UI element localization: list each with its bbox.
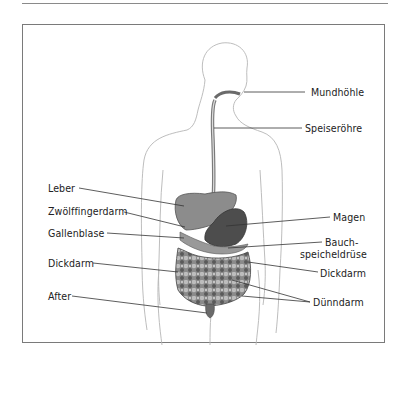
label-bauchspeicheldruese-2: speicheldrüse bbox=[300, 248, 367, 260]
label-bauchspeicheldruese-1: Bauch- bbox=[325, 236, 358, 248]
label-magen: Magen bbox=[333, 211, 365, 223]
esophagus bbox=[212, 92, 240, 200]
label-gallenblase: Gallenblase bbox=[48, 227, 104, 239]
intestines bbox=[176, 248, 251, 306]
label-dickdarm-right: Dickdarm bbox=[320, 267, 366, 279]
rectum bbox=[206, 304, 215, 318]
label-zwoelffingerdarm: Zwölffingerdarm bbox=[48, 205, 128, 217]
label-speiseroehre: Speiseröhre bbox=[305, 122, 362, 134]
label-leber: Leber bbox=[48, 182, 75, 194]
label-mundhoehle: Mundhöhle bbox=[311, 86, 364, 98]
label-dickdarm-left: Dickdarm bbox=[48, 257, 94, 269]
label-after: After bbox=[48, 290, 71, 302]
label-duenndarm: Dünndarm bbox=[313, 296, 364, 308]
organs bbox=[175, 192, 251, 318]
digestive-system-illustration bbox=[0, 0, 408, 406]
